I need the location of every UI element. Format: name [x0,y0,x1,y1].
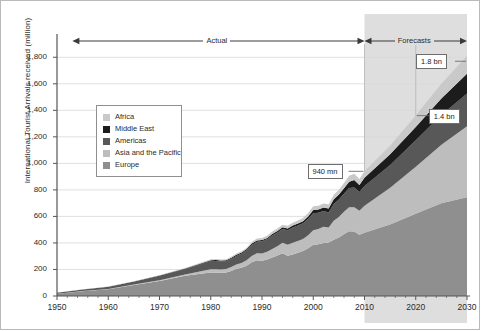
legend-swatch-icon [103,138,110,145]
x-axis-label: 1990 [245,302,279,312]
legend-item-label: Africa [115,113,134,121]
legend-swatch-icon [103,162,110,169]
y-axis-label: 1,000 [13,158,47,167]
legend-swatch-icon [103,150,110,157]
legend-item-africa[interactable]: Africa [103,111,174,123]
actual-span-label: Actual [203,36,230,45]
legend-item-label: Asia and the Pacific [115,149,181,157]
legend-item-asia-and-the-pacific[interactable]: Asia and the Pacific [103,147,174,159]
legend-item-label: Americas [115,137,146,145]
plot-area [0,0,481,331]
x-axis-label: 1960 [91,302,125,312]
y-axis-label: 400 [13,238,47,247]
x-axis-label: 2010 [348,302,382,312]
y-axis-label: 1,200 [13,132,47,141]
y-axis-label: 600 [13,211,47,220]
y-axis-label: 800 [13,185,47,194]
forecast-span-label: Forecasts [395,36,434,45]
legend-item-label: Middle East [115,125,154,133]
y-axis-label: 0 [13,291,47,300]
legend-item-americas[interactable]: Americas [103,135,174,147]
x-axis-label: 1950 [40,302,74,312]
legend-item-label: Europe [115,161,139,169]
x-axis-label: 2030 [450,302,481,312]
y-axis-label: 1,600 [13,79,47,88]
legend-swatch-icon [103,126,110,133]
x-axis-label: 1970 [143,302,177,312]
y-axis-label: 200 [13,264,47,273]
legend-swatch-icon [103,114,110,121]
legend: AfricaMiddle EastAmericasAsia and the Pa… [96,105,182,177]
legend-item-europe[interactable]: Europe [103,159,174,171]
legend-item-middle-east[interactable]: Middle East [103,123,174,135]
callout-1-4bn: 1.4 bn [429,109,460,124]
callout-1-8bn: 1.8 bn [416,54,447,69]
x-axis-label: 2020 [399,302,433,312]
callout-940mn: 940 mn [308,164,343,179]
x-axis-label: 2000 [296,302,330,312]
y-axis-label: 1,400 [13,105,47,114]
y-axis-label: 1,800 [13,52,47,61]
chart-root: International Tourist Arrivals received … [0,0,481,331]
x-axis-label: 1980 [194,302,228,312]
